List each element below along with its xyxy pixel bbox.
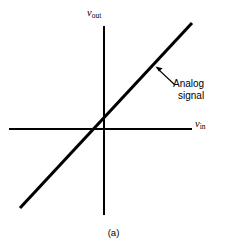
y-axis-label-symbol: v [87, 7, 92, 18]
figure-analog-signal-plot: vout vin Analogsignal (a) [0, 0, 227, 251]
figure-caption: (a) [0, 227, 227, 238]
analog-signal-annotation-line2: signal [173, 90, 227, 102]
x-axis-label-subscript: in [200, 122, 206, 131]
analog-signal-annotation: Analogsignal [173, 78, 227, 101]
x-axis-label: vin [195, 119, 206, 130]
analog-signal-line [20, 23, 192, 208]
y-axis-label-subscript: out [92, 11, 102, 20]
analog-signal-annotation-line1: Analog [173, 78, 204, 89]
plot-canvas [0, 0, 227, 251]
x-axis-label-symbol: v [195, 118, 200, 129]
y-axis-label: vout [87, 8, 102, 19]
